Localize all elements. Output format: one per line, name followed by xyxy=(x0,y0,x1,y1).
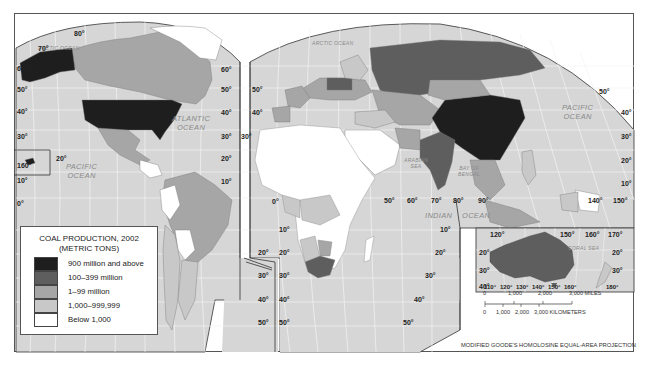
lat-label: 30° xyxy=(425,272,436,279)
lat-label: 10° xyxy=(440,226,451,233)
lon-label: 50° xyxy=(384,197,395,204)
lat-label: 20° xyxy=(279,249,290,256)
lon-label: 80° xyxy=(453,197,464,204)
ocean-label-coral-sea: CORAL SEA xyxy=(568,245,599,251)
ocean-label-bengal-line2: BENGAL xyxy=(458,171,480,177)
lat-label: 40° xyxy=(221,109,232,116)
lat-label: 50° xyxy=(221,86,232,93)
ocean-label-arabian-sea: ARABIAN SEA xyxy=(404,157,428,169)
lat-label: 20° xyxy=(258,249,269,256)
lat-label: 50° xyxy=(17,86,28,93)
legend-swatch xyxy=(34,299,58,313)
legend-item: 1,000–999,999 xyxy=(34,299,154,313)
lon-label: 60° xyxy=(407,197,418,204)
ocean-label-arctic-right: ARCTIC OCEAN xyxy=(312,40,353,46)
scale-km-3000: 3,000 KILOMETERS xyxy=(534,309,586,315)
inset-lon-label: 120° xyxy=(490,231,504,238)
ocean-label-indian-1: INDIAN xyxy=(425,211,452,220)
lat-label: 40° xyxy=(279,296,290,303)
legend-item: 100–399 million xyxy=(34,271,154,285)
lat-label: 60° xyxy=(17,65,28,72)
ocean-label-atlantic-line2: OCEAN xyxy=(172,123,210,132)
lon-label-hawaii: 160° xyxy=(17,162,31,169)
lat-label: 30° xyxy=(17,133,28,140)
legend-swatch xyxy=(34,271,58,285)
scale-bar-lines xyxy=(460,290,635,340)
legend-swatch xyxy=(34,313,58,327)
lat-label: 20° xyxy=(221,155,232,162)
legend-swatch xyxy=(34,257,58,271)
lon-label: 150° xyxy=(613,197,627,204)
lat-label: 30° xyxy=(621,133,632,140)
legend-label: Below 1,000 xyxy=(68,315,111,324)
lat-label: 10° xyxy=(279,226,290,233)
lat-label: 20° xyxy=(435,249,446,256)
lat-label: 20° xyxy=(621,157,632,164)
ocean-label-bay-of-bengal: BAY OF BENGAL xyxy=(458,165,480,177)
inset-lat-label: 20° xyxy=(479,249,490,256)
inset-lat-label: 30° xyxy=(612,267,623,274)
legend-item: Below 1,000 xyxy=(34,313,154,327)
lat-label: 30° xyxy=(221,133,232,140)
lat-label: 0° xyxy=(17,200,24,207)
ocean-label-pacific-left-line2: OCEAN xyxy=(66,171,97,180)
legend-item: 1–99 million xyxy=(34,285,154,299)
legend-label: 1,000–999,999 xyxy=(68,301,120,310)
legend-label: 900 million and above xyxy=(68,259,144,268)
legend-item: 900 million and above xyxy=(34,257,154,271)
ocean-label-indian-2: OCEAN xyxy=(462,211,490,220)
scale-km-0: 0 xyxy=(483,309,486,315)
lat-label: 70° xyxy=(38,45,49,52)
legend-title: COAL PRODUCTION, 2002 (METRIC TONS) xyxy=(21,234,157,254)
lat-label: 50° xyxy=(599,88,610,95)
inset-lon-label: 150° xyxy=(560,231,574,238)
legend-title-line2: (METRIC TONS) xyxy=(21,244,157,254)
lat-label: 40° xyxy=(258,296,269,303)
lat-label: 40° xyxy=(414,296,425,303)
scale-bar: 0 1,000 2,000 3,000 MILES 0 1,000 2,000 … xyxy=(460,290,635,340)
lat-label: 0° xyxy=(272,198,279,205)
inset-lat-label: 20° xyxy=(612,249,623,256)
legend-label: 100–399 million xyxy=(68,273,123,282)
lat-label: 80° xyxy=(74,30,85,37)
ocean-label-pacific-left: PACIFIC OCEAN xyxy=(66,162,97,180)
inset-lat-label: 30° xyxy=(479,267,490,274)
lat-label: 20° xyxy=(56,155,67,162)
lat-label: 50° xyxy=(252,86,263,93)
lat-label: 50° xyxy=(258,319,269,326)
lat-label: 40° xyxy=(17,108,28,115)
lat-label: 60° xyxy=(221,66,232,73)
scale-km-1000: 1,000 xyxy=(496,309,510,315)
ocean-label-pacific-right-line2: OCEAN xyxy=(562,112,593,121)
lon-label: 90° xyxy=(478,197,489,204)
scale-km-2000: 2,000 xyxy=(515,309,529,315)
map-legend: COAL PRODUCTION, 2002 (METRIC TONS) 900 … xyxy=(20,226,158,335)
lat-label: 10° xyxy=(17,177,28,184)
ocean-label-pacific-right-line1: PACIFIC xyxy=(562,103,593,112)
ocean-label-pacific-right: PACIFIC OCEAN xyxy=(562,103,593,121)
lat-label: 30° xyxy=(279,272,290,279)
ocean-label-arabian-line2: SEA xyxy=(404,163,428,169)
lat-label: 40° xyxy=(252,109,263,116)
legend-swatch xyxy=(34,285,58,299)
lat-label: 10° xyxy=(621,180,632,187)
lat-label: 10° xyxy=(221,178,232,185)
inset-lon-label: 160° xyxy=(585,231,599,238)
legend-label: 1–99 million xyxy=(68,287,110,296)
ocean-label-atlantic: ATLANTIC OCEAN xyxy=(172,114,210,132)
lat-label: 50° xyxy=(403,319,414,326)
inset-lon-label: 170° xyxy=(608,231,622,238)
lat-label: 40° xyxy=(621,109,632,116)
projection-note: MODIFIED GOODE'S HOMOLOSINE EQUAL-AREA P… xyxy=(461,342,636,348)
lon-label: 70° xyxy=(431,197,442,204)
lat-label: 30° xyxy=(258,272,269,279)
ocean-label-atlantic-line1: ATLANTIC xyxy=(172,114,210,123)
lat-label: 30° xyxy=(241,133,252,140)
ocean-label-pacific-left-line1: PACIFIC xyxy=(66,162,97,171)
legend-title-line1: COAL PRODUCTION, 2002 xyxy=(21,234,157,244)
lat-label: 50° xyxy=(279,319,290,326)
lon-label: 140° xyxy=(588,197,602,204)
